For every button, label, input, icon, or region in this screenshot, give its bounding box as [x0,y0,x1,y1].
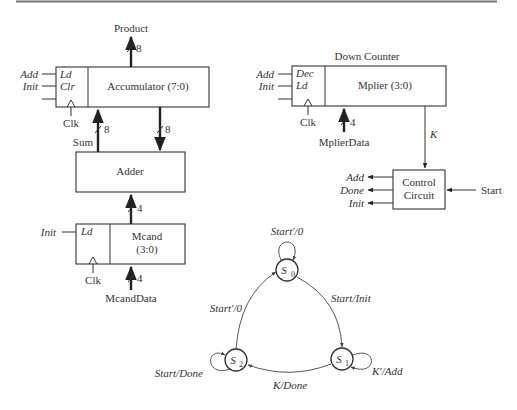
s1-self-loop-label: K′/Add [371,365,403,377]
k-label: K [429,128,438,140]
sum-width: 8 [104,123,110,135]
mplier-title: Mplier (3:0) [358,79,412,92]
mplier-init-input: Init [258,80,275,92]
s0-self-loop-label: Start′/0 [271,225,304,237]
mplier-dec-label: Dec [295,67,314,79]
mcand-ld-label: Ld [80,225,93,237]
product-label: Product [114,22,148,34]
start-input-label: Start [481,184,502,196]
acc-ld-label: Ld [59,68,72,80]
mcand-init-input: Init [40,226,57,238]
state-s2-sub: 2 [239,360,243,369]
accumulator-block: Ld Clr Accumulator (7:0) Add Init Clk 8 … [19,22,209,152]
mcand-clk-label: Clk [85,274,101,286]
control-done-output: Done [339,184,364,196]
sum-label: Sum [73,136,94,148]
state-s0-sub: 0 [291,270,295,279]
down-counter-heading: Down Counter [334,50,399,62]
s2-self-loop-label: Start/Done [155,367,203,379]
product-width: 8 [136,42,142,54]
acc-clr-label: Clr [60,80,75,92]
acc-add-input: Add [19,68,38,80]
mcand-title-line1: Mcand [132,230,163,242]
acc-init-input: Init [22,80,39,92]
state-graph: Start′/0 Start/Init K′/Add K/Done Start/… [155,225,403,391]
mplier-add-input: Add [255,68,274,80]
accumulator-title: Accumulator (7:0) [107,80,189,93]
s0-to-s1-label: Start/Init [331,292,372,304]
mcand-title-line2: (3:0) [136,243,158,256]
control-title-line2: Circuit [404,189,435,201]
mplier-data-width: 4 [350,116,356,128]
state-s2-name: S [230,354,236,366]
acc-to-adder-width: 8 [165,123,171,135]
state-s0: S 0 [276,259,298,281]
s2-to-s0-label: Start′/0 [210,302,243,314]
mplier-ld-label: Ld [295,79,308,91]
control-title-line1: Control [402,176,436,188]
control-circuit-block: Control Circuit Add Done Init Start [339,170,502,209]
state-s1-name: S [336,353,342,365]
state-s1: S 1 [331,348,353,370]
acc-clk-label: Clk [63,117,79,129]
mplier-data-label: MplierData [319,136,370,148]
s1-to-s2-label: K/Done [272,379,307,391]
control-init-output: Init [348,197,365,209]
control-add-output: Add [345,171,364,183]
mplier-block: Down Counter Dec Ld Mplier (3:0) Add Ini… [255,50,446,168]
state-s1-sub: 1 [345,359,349,368]
mcand-block: Ld Mcand (3:0) Init Clk 4 McandData [40,224,185,304]
mcand-to-adder-width: 4 [137,202,143,214]
mcand-data-label: McandData [105,292,156,304]
multiplier-diagram: Ld Clr Accumulator (7:0) Add Init Clk 8 … [0,0,517,410]
adder-title: Adder [116,165,144,177]
state-s0-name: S [281,264,287,276]
mcand-data-width: 4 [137,272,143,284]
state-s2: S 2 [225,349,247,371]
adder-block: Adder 4 [76,152,185,224]
mplier-clk-label: Clk [300,116,316,128]
